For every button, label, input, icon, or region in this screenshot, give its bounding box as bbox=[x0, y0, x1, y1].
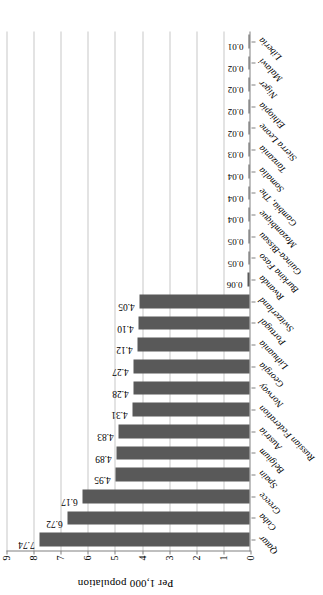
bar-item[interactable]: 4.28 bbox=[5, 381, 249, 394]
x-tick-mark bbox=[251, 84, 255, 85]
bar-item[interactable]: 6.17 bbox=[5, 489, 249, 502]
bar[interactable] bbox=[82, 489, 249, 502]
y-tick-mark bbox=[114, 550, 115, 554]
x-tick-mark bbox=[251, 496, 255, 497]
bar-value-label: 4.27 bbox=[112, 366, 129, 376]
bar-item[interactable]: 6.72 bbox=[5, 511, 249, 524]
bar[interactable] bbox=[248, 207, 249, 220]
bar-item[interactable]: 0.03 bbox=[5, 142, 249, 155]
x-tick-mark bbox=[251, 301, 255, 302]
x-tick-mark bbox=[251, 128, 255, 129]
bar[interactable] bbox=[248, 77, 249, 90]
bar[interactable] bbox=[248, 99, 249, 112]
bar[interactable] bbox=[247, 272, 249, 285]
bar-item[interactable]: 4.10 bbox=[5, 316, 249, 329]
bar-item[interactable]: 0.04 bbox=[5, 207, 249, 220]
y-tick-label: 2 bbox=[190, 555, 201, 560]
plot-area: 0123456789 7.746.726.174.954.894.834.314… bbox=[6, 31, 250, 551]
y-tick-label: 5 bbox=[109, 555, 120, 560]
bar-value-label: 0.02 bbox=[227, 63, 243, 73]
bar[interactable] bbox=[138, 316, 249, 329]
y-tick-label: 7 bbox=[55, 555, 66, 560]
bar-item[interactable]: 7.74 bbox=[5, 532, 249, 545]
bar[interactable] bbox=[248, 229, 249, 242]
bar[interactable] bbox=[248, 186, 249, 199]
bar-item[interactable]: 4.05 bbox=[5, 294, 249, 307]
bar-value-label: 4.95 bbox=[94, 474, 111, 484]
bar[interactable] bbox=[248, 164, 249, 177]
bar[interactable] bbox=[248, 142, 249, 155]
bar[interactable] bbox=[115, 467, 249, 480]
bar[interactable] bbox=[137, 337, 249, 350]
bar-value-label: 0.06 bbox=[227, 279, 243, 289]
bar-series: 7.746.726.174.954.894.834.314.284.274.12… bbox=[6, 31, 249, 550]
y-axis-title-text: Per 1,000 population bbox=[77, 577, 173, 589]
x-tick-mark bbox=[251, 214, 255, 215]
bar-item[interactable]: 4.95 bbox=[5, 467, 249, 480]
bar-item[interactable]: 0.02 bbox=[5, 121, 249, 134]
bar[interactable] bbox=[248, 121, 249, 134]
bar-value-label: 4.28 bbox=[112, 388, 129, 398]
bar-item[interactable]: 0.01 bbox=[5, 34, 249, 47]
x-tick-mark bbox=[251, 63, 255, 64]
bar-value-label: 4.89 bbox=[95, 453, 112, 463]
bar-value-label: 0.05 bbox=[227, 258, 243, 268]
bar[interactable] bbox=[133, 381, 249, 394]
x-tick-mark bbox=[251, 366, 255, 367]
y-tick-mark bbox=[33, 550, 34, 554]
bar-item[interactable]: 4.27 bbox=[5, 359, 249, 372]
x-tick-mark bbox=[251, 474, 255, 475]
chart-page: Per 1,000 population 0123456789 7.746.72… bbox=[0, 0, 323, 595]
bar[interactable] bbox=[116, 446, 249, 459]
bar-item[interactable]: 4.12 bbox=[5, 337, 249, 350]
bar[interactable] bbox=[132, 402, 249, 415]
x-tick-mark bbox=[251, 388, 255, 389]
bar[interactable] bbox=[118, 424, 249, 437]
bar-item[interactable]: 0.05 bbox=[5, 229, 249, 242]
bar-value-label: 4.31 bbox=[111, 409, 128, 419]
bar[interactable] bbox=[248, 251, 249, 264]
bar-value-label: 6.17 bbox=[60, 496, 77, 506]
bar-item[interactable]: 4.83 bbox=[5, 424, 249, 437]
x-tick-mark bbox=[251, 41, 255, 42]
bar-item[interactable]: 0.04 bbox=[5, 164, 249, 177]
bar[interactable] bbox=[248, 34, 249, 47]
bar-value-label: 4.83 bbox=[97, 431, 114, 441]
x-tick-mark bbox=[251, 539, 255, 540]
bar-value-label: 0.05 bbox=[227, 236, 243, 246]
bar[interactable] bbox=[67, 511, 249, 524]
x-tick-mark bbox=[251, 344, 255, 345]
bar-value-label: 0.02 bbox=[227, 106, 243, 116]
x-tick-mark bbox=[251, 453, 255, 454]
y-tick-label: 0 bbox=[245, 555, 256, 560]
bar[interactable] bbox=[139, 294, 249, 307]
bar-item[interactable]: 0.05 bbox=[5, 251, 249, 264]
y-tick-mark bbox=[142, 550, 143, 554]
x-tick-mark bbox=[251, 236, 255, 237]
bar-item[interactable]: 0.02 bbox=[5, 77, 249, 90]
bar-value-label: 4.10 bbox=[117, 323, 134, 333]
x-tick-mark bbox=[251, 409, 255, 410]
x-tick-mark bbox=[251, 106, 255, 107]
bar[interactable] bbox=[133, 359, 249, 372]
bar[interactable] bbox=[248, 56, 249, 69]
bar-value-label: 4.05 bbox=[118, 301, 135, 311]
y-tick-mark bbox=[223, 550, 224, 554]
x-tick-mark bbox=[251, 431, 255, 432]
bar-value-label: 4.12 bbox=[116, 344, 133, 354]
y-axis-title: Per 1,000 population bbox=[0, 573, 250, 593]
bar-value-label: 0.02 bbox=[227, 84, 243, 94]
bar-item[interactable]: 4.89 bbox=[5, 446, 249, 459]
y-tick-label: 9 bbox=[1, 555, 12, 560]
bar-item[interactable]: 0.04 bbox=[5, 186, 249, 199]
y-tick-label: 8 bbox=[28, 555, 39, 560]
bar-value-label: 6.72 bbox=[46, 518, 63, 528]
bar-item[interactable]: 0.02 bbox=[5, 56, 249, 69]
x-tick-mark bbox=[251, 279, 255, 280]
y-tick-mark bbox=[169, 550, 170, 554]
bar[interactable] bbox=[39, 532, 249, 545]
bar-item[interactable]: 0.06 bbox=[5, 272, 249, 285]
x-axis-category-labels: QatarCubaGreeceSpainBelgiumAustriaRussia… bbox=[251, 31, 321, 551]
bar-item[interactable]: 0.02 bbox=[5, 99, 249, 112]
bar-item[interactable]: 4.31 bbox=[5, 402, 249, 415]
